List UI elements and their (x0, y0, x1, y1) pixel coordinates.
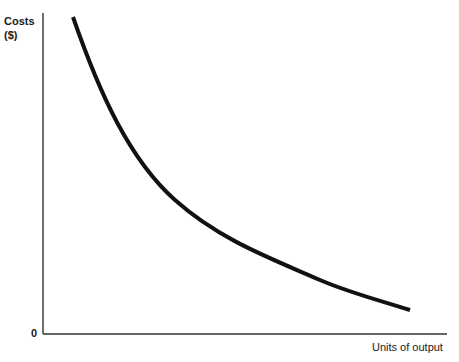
y-axis-label: Costs ($) (4, 14, 35, 42)
origin-label: 0 (31, 327, 37, 339)
y-axis-label-line-2: ($) (4, 28, 35, 42)
y-axis-label-line-1: Costs (4, 14, 35, 28)
x-axis-label: Units of output (372, 341, 443, 353)
cost-curve-line (73, 17, 410, 310)
chart-canvas (0, 0, 459, 362)
